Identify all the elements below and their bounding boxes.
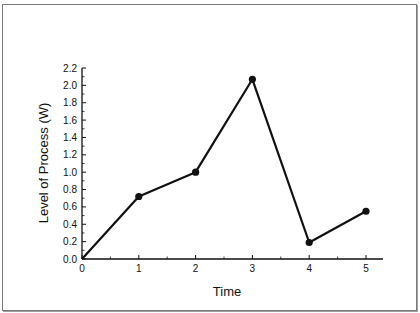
x-axis-title: Time [213, 284, 241, 299]
x-tick-label: 2 [193, 263, 199, 274]
data-point-marker [192, 169, 199, 176]
y-tick-label: 1.2 [63, 149, 77, 160]
x-tick-label: 1 [136, 263, 142, 274]
data-point-marker [249, 76, 256, 83]
y-tick-label: 2.0 [63, 80, 77, 91]
series-line [82, 79, 366, 259]
y-tick-label: 0.0 [63, 254, 77, 265]
y-tick-label: 2.2 [63, 63, 77, 74]
y-tick-label: 0.4 [63, 219, 77, 230]
data-point-marker [362, 208, 369, 215]
data-point-marker [135, 193, 142, 200]
line-chart: 0.00.20.40.60.81.01.21.41.61.82.02.2 012… [0, 0, 420, 313]
x-tick-label: 3 [250, 263, 256, 274]
y-tick-label: 0.6 [63, 201, 77, 212]
y-tick-label: 1.6 [63, 115, 77, 126]
y-tick-label: 1.8 [63, 97, 77, 108]
x-tick-label: 4 [306, 263, 312, 274]
x-tick-label: 0 [79, 263, 85, 274]
y-axis: 0.00.20.40.60.81.01.21.41.61.82.02.2 [63, 63, 86, 265]
y-tick-label: 1.0 [63, 167, 77, 178]
x-axis: 012345 [79, 255, 383, 274]
y-tick-label: 0.2 [63, 236, 77, 247]
y-tick-label: 1.4 [63, 132, 77, 143]
data-point-marker [306, 239, 313, 246]
x-tick-label: 5 [363, 263, 369, 274]
data-series [82, 76, 370, 259]
y-axis-title: Level of Process (W) [36, 103, 51, 224]
y-tick-label: 0.8 [63, 184, 77, 195]
